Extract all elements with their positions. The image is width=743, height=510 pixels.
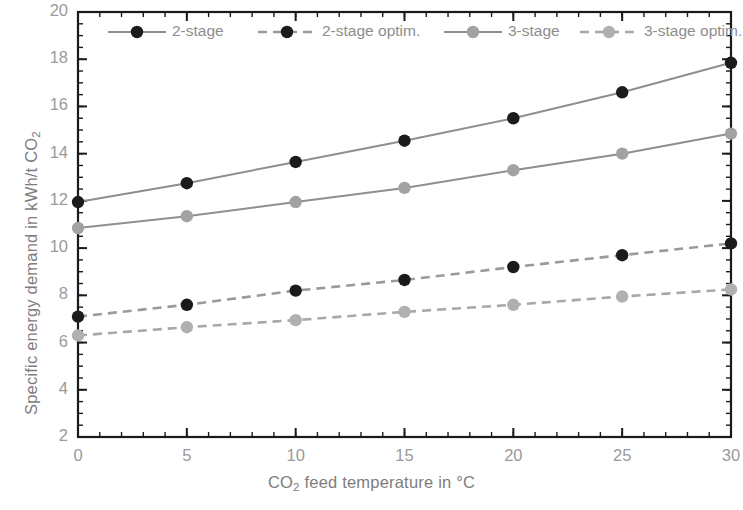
x-tick-label: 5 <box>167 446 207 465</box>
data-point-marker <box>398 274 410 286</box>
y-tick-label: 4 <box>32 379 68 398</box>
x-tick-label: 25 <box>602 446 642 465</box>
data-point-marker <box>289 284 301 296</box>
chart-plot-area <box>0 0 743 510</box>
data-point-marker <box>289 314 301 326</box>
data-point-marker <box>72 329 84 341</box>
x-tick-label: 0 <box>58 446 98 465</box>
data-point-marker <box>616 249 628 261</box>
x-tick-label: 30 <box>711 446 743 465</box>
data-point-marker <box>725 127 737 139</box>
x-axis-title-subscript: 2 <box>293 481 300 493</box>
data-point-marker <box>616 290 628 302</box>
data-point-marker <box>181 210 193 222</box>
data-point-marker <box>398 134 410 146</box>
data-point-marker <box>507 112 519 124</box>
data-point-marker <box>289 156 301 168</box>
y-tick-label: 8 <box>32 284 68 303</box>
x-tick-label: 20 <box>493 446 533 465</box>
y-tick-label: 14 <box>32 143 68 162</box>
y-tick-label: 2 <box>32 426 68 445</box>
x-tick-label: 10 <box>276 446 316 465</box>
data-point-marker <box>725 283 737 295</box>
data-point-marker <box>72 222 84 234</box>
legend-sample-marker <box>603 26 615 38</box>
legend-sample-marker <box>281 26 293 38</box>
x-tick-label: 15 <box>385 446 425 465</box>
legend-sample-marker <box>131 26 143 38</box>
y-axis-title-subscript: 2 <box>30 131 42 138</box>
data-point-marker <box>398 182 410 194</box>
data-point-marker <box>181 177 193 189</box>
legend-item-label: 3-stage <box>508 22 560 40</box>
plot-frame <box>78 12 731 437</box>
series-4 <box>72 283 737 341</box>
legend-sample-marker <box>467 26 479 38</box>
data-point-marker <box>72 196 84 208</box>
legend-item-label: 3-stage optim. <box>644 22 742 40</box>
y-tick-label: 18 <box>32 48 68 67</box>
x-axis-title: CO2 feed temperature in °C <box>0 473 743 493</box>
y-tick-label: 16 <box>32 95 68 114</box>
y-tick-label: 20 <box>32 1 68 20</box>
y-tick-label: 6 <box>32 332 68 351</box>
data-point-marker <box>507 261 519 273</box>
data-point-marker <box>72 310 84 322</box>
data-point-marker <box>507 164 519 176</box>
axis-ticks <box>78 12 731 437</box>
data-point-marker <box>398 306 410 318</box>
y-tick-label: 12 <box>32 190 68 209</box>
data-point-marker <box>507 299 519 311</box>
chart-figure: Specific energy demand in kWh/t CO2 CO2 … <box>0 0 743 510</box>
data-point-marker <box>181 321 193 333</box>
data-point-marker <box>181 299 193 311</box>
data-series-group <box>72 57 737 342</box>
data-point-marker <box>725 237 737 249</box>
data-point-marker <box>616 147 628 159</box>
data-point-marker <box>289 196 301 208</box>
series-line <box>78 134 731 228</box>
data-point-marker <box>725 57 737 69</box>
y-axis-title: Specific energy demand in kWh/t CO2 <box>22 131 42 415</box>
y-tick-label: 10 <box>32 237 68 256</box>
data-point-marker <box>616 86 628 98</box>
legend-item-label: 2-stage <box>172 22 224 40</box>
legend-item-label: 2-stage optim. <box>322 22 420 40</box>
series-line <box>78 63 731 202</box>
